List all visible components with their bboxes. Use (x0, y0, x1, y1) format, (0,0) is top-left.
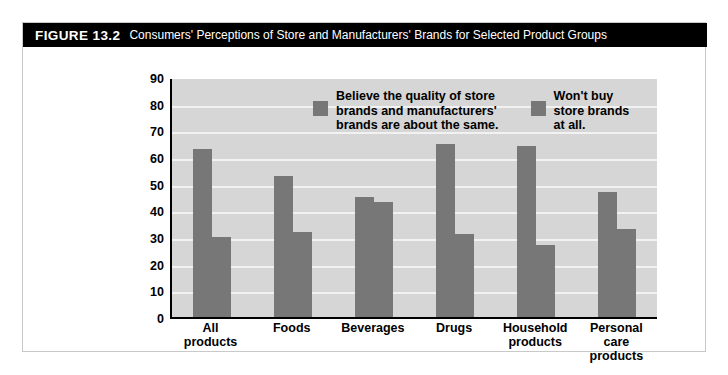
bar (293, 232, 312, 317)
bar (355, 197, 374, 317)
y-axis-tick-label: 0 (138, 312, 164, 326)
y-axis-tick-label: 50 (138, 179, 164, 193)
legend-swatch-icon (531, 101, 546, 116)
bar (455, 234, 474, 317)
legend-item-same-quality: Believe the quality of store brands and … (313, 89, 499, 133)
legend-swatch-icon (313, 101, 328, 116)
y-axis-tick-label: 20 (138, 259, 164, 273)
x-axis-tick-label: Personal care products (580, 321, 652, 363)
y-axis-tick-label: 30 (138, 232, 164, 246)
bar (536, 245, 555, 317)
bar (374, 202, 393, 317)
bar (212, 237, 231, 317)
x-axis-tick-labels: All productsFoodsBeveragesDrugsHousehold… (170, 321, 657, 363)
figure-frame: FIGURE 13.2 Consumers' Perceptions of St… (22, 22, 706, 352)
x-axis-tick-label: All products (175, 321, 247, 363)
bar (617, 229, 636, 317)
bar (274, 176, 293, 317)
bar-group (274, 79, 312, 317)
y-axis-tick-labels: 9080706050403020100 (138, 47, 164, 352)
chart-legend: Believe the quality of store brands and … (313, 89, 629, 133)
x-axis-tick-label: Foods (256, 321, 328, 363)
legend-label-same-quality: Believe the quality of store brands and … (336, 89, 499, 133)
bar (517, 146, 536, 317)
x-axis-tick-label: Beverages (337, 321, 409, 363)
bar (436, 144, 455, 317)
bar-group (193, 79, 231, 317)
x-axis-tick-label: Household products (499, 321, 571, 363)
bar (193, 149, 212, 317)
legend-item-wont-buy: Won't buy store brands at all. (531, 89, 630, 133)
y-axis-tick-label: 10 (138, 285, 164, 299)
chart-area: Percent responding 9080706050403020100 A… (23, 47, 707, 352)
y-axis-tick-label: 40 (138, 205, 164, 219)
figure-caption: Consumers' Perceptions of Store and Manu… (129, 28, 607, 42)
figure-title-bar: FIGURE 13.2 Consumers' Perceptions of St… (23, 23, 707, 47)
bar (598, 192, 617, 317)
y-axis-tick-label: 70 (138, 125, 164, 139)
y-axis-tick-label: 90 (138, 72, 164, 86)
y-axis-tick-label: 80 (138, 99, 164, 113)
legend-label-wont-buy: Won't buy store brands at all. (554, 89, 630, 133)
x-axis-tick-label: Drugs (418, 321, 490, 363)
y-axis-tick-label: 60 (138, 152, 164, 166)
figure-number-label: FIGURE 13.2 (35, 28, 120, 43)
